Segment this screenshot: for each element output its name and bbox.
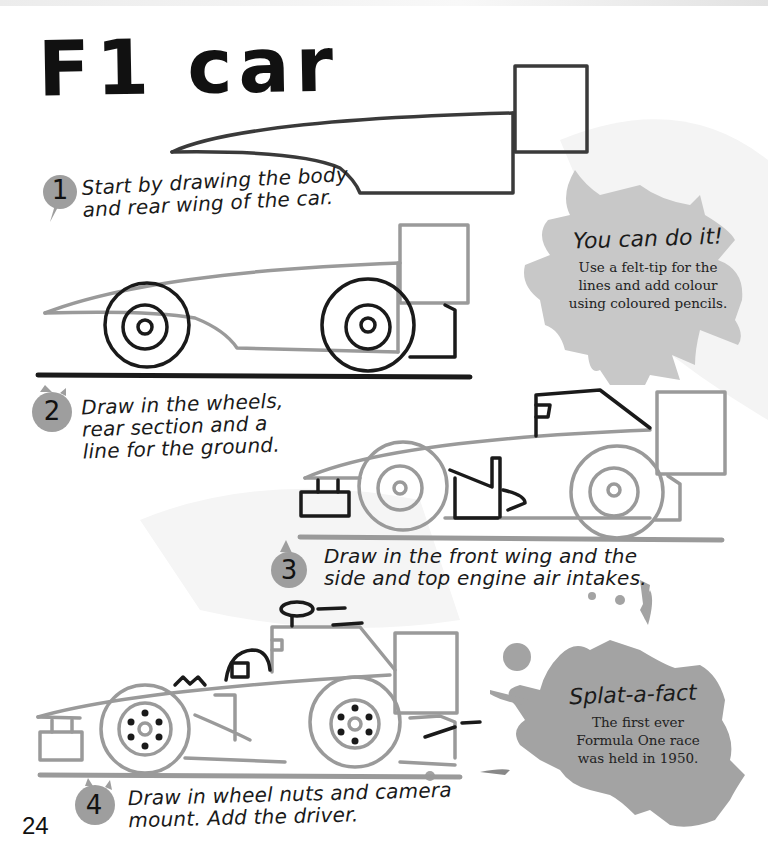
fact-box-line-1: The first ever [548, 713, 728, 731]
step-1-number: 1 [48, 175, 72, 205]
tip-box-body: Use a felt-tip for the lines and add col… [548, 258, 748, 312]
step-3-number: 3 [277, 555, 301, 585]
fact-box-line-2: Formula One race [548, 731, 728, 749]
step-3-text: Draw in the front wing and the side and … [324, 545, 647, 589]
car-step-2 [38, 225, 470, 377]
tip-box-line-3: using coloured pencils. [548, 294, 748, 312]
fact-box-body: The first ever Formula One race was held… [548, 713, 728, 767]
car-step-4 [38, 602, 480, 777]
tip-box-line-2: lines and add colour [548, 276, 748, 294]
step-3-line-1: Draw in the front wing and the [324, 545, 647, 567]
fact-box-line-3: was held in 1950. [548, 749, 728, 767]
step-3-line-2: side and top engine air intakes. [324, 567, 647, 589]
step-2-number: 2 [40, 396, 64, 426]
step-4-number: 4 [82, 790, 106, 820]
step-4-text: Draw in wheel nuts and camera mount. Add… [127, 779, 452, 831]
tip-box-line-1: Use a felt-tip for the [548, 258, 748, 276]
page-number: 24 [22, 812, 49, 840]
step-2-text: Draw in the wheels, rear section and a l… [81, 389, 285, 462]
car-step-3 [300, 390, 725, 540]
